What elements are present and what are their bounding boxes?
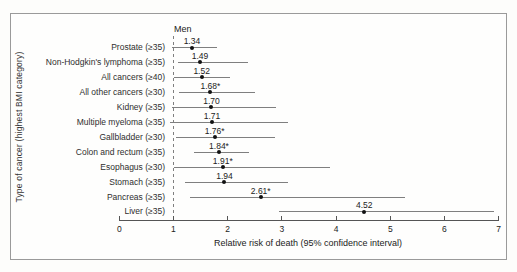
rr-marker bbox=[221, 165, 225, 169]
x-tick-label: 3 bbox=[279, 224, 284, 234]
x-tick-label: 4 bbox=[334, 224, 339, 234]
row-label: Multiple myeloma (≥35) bbox=[10, 117, 165, 127]
x-axis-tick bbox=[281, 216, 282, 220]
ci-line bbox=[172, 107, 277, 108]
rr-value-label: 1.76* bbox=[205, 126, 225, 136]
ci-line bbox=[178, 62, 248, 63]
rr-value-label: 1.70 bbox=[203, 96, 220, 106]
x-tick-label: 6 bbox=[442, 224, 447, 234]
row-label: Liver (≥35) bbox=[10, 206, 165, 216]
ci-line bbox=[279, 211, 494, 212]
rr-value-label: 2.61* bbox=[251, 186, 271, 196]
x-axis-tick bbox=[444, 216, 445, 220]
group-header-men: Men bbox=[174, 24, 192, 34]
row-label: Pancreas (≥35) bbox=[10, 192, 165, 202]
rr-value-label: 1.68* bbox=[200, 81, 220, 91]
rr-marker bbox=[259, 195, 263, 199]
ci-line bbox=[179, 92, 254, 93]
x-tick-label: 0 bbox=[117, 224, 122, 234]
row-label: Esophagus (≥30) bbox=[10, 162, 165, 172]
x-axis-tick bbox=[227, 216, 228, 220]
ci-line bbox=[190, 197, 406, 198]
rr-value-label: 4.52 bbox=[356, 200, 373, 210]
rr-value-label: 1.91* bbox=[213, 156, 233, 166]
x-tick-label: 5 bbox=[388, 224, 393, 234]
ci-line bbox=[185, 182, 287, 183]
x-tick-label: 2 bbox=[225, 224, 230, 234]
x-axis-tick bbox=[498, 216, 499, 220]
rr-value-label: 1.52 bbox=[193, 66, 210, 76]
rr-value-label: 1.71 bbox=[204, 111, 221, 121]
rr-marker bbox=[190, 46, 194, 50]
x-tick-label: 1 bbox=[171, 224, 176, 234]
rr-value-label: 1.94 bbox=[216, 171, 233, 181]
rr-value-label: 1.84* bbox=[209, 141, 229, 151]
x-axis-tick bbox=[390, 216, 391, 220]
ci-line bbox=[174, 167, 330, 168]
rr-value-label: 1.34 bbox=[184, 36, 201, 46]
x-axis-line bbox=[119, 220, 498, 221]
row-label: Kidney (≥35) bbox=[10, 102, 165, 112]
x-axis-tick bbox=[336, 216, 337, 220]
rr-value-label: 1.49 bbox=[192, 51, 209, 61]
x-tick-label: 7 bbox=[496, 224, 501, 234]
row-label: Colon and rectum (≥35) bbox=[10, 147, 165, 157]
reference-line bbox=[173, 36, 174, 220]
ci-line bbox=[176, 137, 275, 138]
x-axis-label: Relative risk of death (95% confidence i… bbox=[214, 238, 402, 248]
row-label: Non-Hodgkin's lymphoma (≥35) bbox=[10, 57, 165, 67]
rr-marker bbox=[213, 135, 217, 139]
ci-line bbox=[194, 152, 250, 153]
row-label: All cancers (≥40) bbox=[10, 72, 165, 82]
row-label: Gallbladder (≥30) bbox=[10, 132, 165, 142]
row-label: Stomach (≥35) bbox=[10, 177, 165, 187]
row-label: All other cancers (≥30) bbox=[10, 87, 165, 97]
x-axis-tick bbox=[119, 216, 120, 220]
forest-plot-figure: Type of cancer (highest BMI category) Me… bbox=[0, 0, 517, 272]
ci-line bbox=[172, 47, 218, 48]
x-axis-tick bbox=[173, 216, 174, 220]
row-label: Prostate (≥35) bbox=[10, 42, 165, 52]
ci-line bbox=[170, 122, 289, 123]
